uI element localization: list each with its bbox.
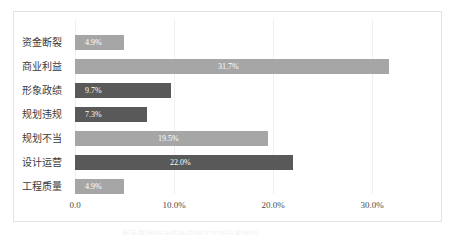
- category-label: 商业利益: [22, 55, 62, 79]
- plot-area: 4.9% 31.7% 9.7% 7.3% 19.5% 22.0% 4.9%: [75, 20, 422, 194]
- x-tick-label: 0.0: [69, 200, 80, 210]
- bar-row: 4.9%: [75, 31, 422, 55]
- bar-row: 9.7%: [75, 79, 422, 103]
- bar-row: 7.3%: [75, 103, 422, 127]
- category-label: 资金断裂: [22, 31, 62, 55]
- bar-row: 22.0%: [75, 151, 422, 175]
- category-label: 规划违规: [22, 103, 62, 127]
- bar-value-label: 19.5%: [158, 131, 179, 146]
- bar-value-label: 22.0%: [170, 155, 191, 170]
- bar-row: 4.9%: [75, 175, 422, 199]
- bar-row: 31.7%: [75, 55, 422, 79]
- x-tick-label: 10.0%: [162, 200, 185, 210]
- category-label: 设计运营: [22, 151, 62, 175]
- category-axis: 资金断裂 商业利益 形象政绩 规划违规 规划不当 设计运营 工程质量: [22, 31, 76, 205]
- x-tick-label: 20.0%: [261, 200, 284, 210]
- clipped-caption: 图表数据统计结果说明文字部分被裁切: [122, 228, 338, 235]
- bar-row: 19.5%: [75, 127, 422, 151]
- bar-value-label: 31.7%: [218, 59, 239, 74]
- bar-value-label: 4.9%: [85, 35, 102, 50]
- bar-value-label: 9.7%: [85, 83, 102, 98]
- bar-value-label: 7.3%: [85, 107, 102, 122]
- x-axis: 0.0 10.0% 20.0% 30.0%: [75, 198, 422, 216]
- category-label: 规划不当: [22, 127, 62, 151]
- bar-value-label: 4.9%: [85, 179, 102, 194]
- x-tick-label: 30.0%: [360, 200, 383, 210]
- category-label: 形象政绩: [22, 79, 62, 103]
- chart-frame: 资金断裂 商业利益 形象政绩 规划违规 规划不当 设计运营 工程质量 4.9% …: [13, 11, 442, 222]
- category-label: 工程质量: [22, 175, 62, 199]
